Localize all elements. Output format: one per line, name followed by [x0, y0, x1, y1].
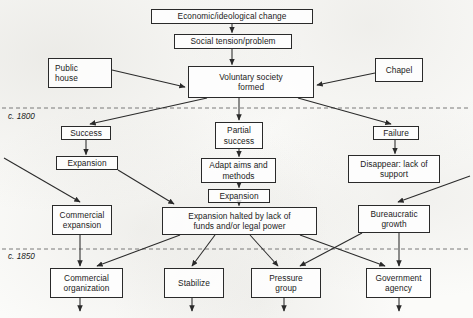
node-success-label: Success [70, 128, 102, 139]
node-adapt-aims-methods-label: Adapt aims and methods [209, 160, 267, 181]
node-partial-success-label: Partial success [224, 125, 254, 146]
node-government-agency-label: Government agency [375, 273, 421, 294]
node-public-house: Public house [48, 58, 112, 88]
node-voluntary-society-formed-label: Voluntary society formed [219, 72, 283, 93]
arrow-expansion-to-halted [118, 170, 174, 204]
arrow-voluntary-to-failure [298, 98, 391, 124]
node-expansion-left: Expansion [56, 156, 118, 170]
arrow-halted-to-commorg [97, 235, 180, 266]
node-chapel-label: Chapel [386, 65, 413, 76]
node-economic-ideological-change: Economic/ideological change [151, 9, 313, 24]
node-failure: Failure [373, 126, 419, 140]
arrow-voluntary-to-success [90, 98, 207, 124]
node-stabilize-label: Stabilize [178, 278, 210, 289]
node-bureaucratic-growth: Bureaucratic growth [358, 205, 430, 233]
era-label-0: c. 1800 [8, 112, 35, 121]
node-disappear-lack-support-label: Disappear: lack of support [360, 159, 427, 180]
arrow-chapel-to-voluntary [317, 73, 375, 85]
node-commercial-expansion-label: Commercial expansion [60, 210, 105, 231]
node-pressure-group: Pressure group [251, 268, 321, 298]
node-partial-success: Partial success [215, 122, 263, 149]
node-bureaucratic-growth-label: Bureaucratic growth [370, 209, 417, 230]
node-expansion-center-label: Expansion [219, 191, 258, 202]
node-voluntary-society-formed: Voluntary society formed [188, 66, 314, 98]
node-commercial-organization: Commercial organization [50, 268, 123, 298]
node-government-agency: Government agency [366, 268, 431, 298]
arrow-halted-to-pressure [250, 235, 278, 266]
node-chapel: Chapel [375, 58, 423, 82]
node-pressure-group-label: Pressure group [269, 273, 303, 294]
node-expansion-halted: Expansion halted by lack of funds and/or… [162, 207, 317, 235]
node-commercial-organization-label: Commercial organization [64, 273, 110, 294]
node-commercial-expansion: Commercial expansion [52, 205, 112, 235]
flowchart-page: c. 1800c. 1850 Economic/ideological chan… [0, 0, 473, 318]
node-social-tension: Social tension/problem [174, 34, 292, 49]
node-public-house-label: Public house [55, 63, 78, 84]
node-success: Success [61, 126, 111, 140]
era-label-1: c. 1850 [8, 252, 35, 261]
node-economic-ideological-change-label: Economic/ideological change [178, 11, 287, 22]
node-expansion-left-label: Expansion [67, 158, 106, 169]
node-failure-label: Failure [383, 128, 409, 139]
arrow-halted-to-govagency [300, 235, 385, 266]
node-expansion-center: Expansion [208, 189, 270, 203]
node-stabilize: Stabilize [164, 268, 224, 298]
arrow-publichouse-to-voluntary [112, 70, 185, 87]
node-expansion-halted-label: Expansion halted by lack of funds and/or… [188, 211, 290, 232]
node-disappear-lack-support: Disappear: lack of support [348, 155, 440, 183]
node-social-tension-label: Social tension/problem [190, 36, 275, 47]
arrow-halted-to-stabilize [192, 235, 215, 266]
node-adapt-aims-methods: Adapt aims and methods [201, 158, 276, 183]
